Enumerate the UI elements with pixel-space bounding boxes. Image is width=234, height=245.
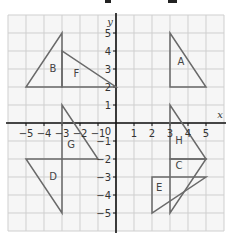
x-tick-label: 2 [149, 128, 155, 139]
y-tick-label: 3 [105, 64, 111, 75]
x-tick-label: −2 [73, 128, 88, 139]
coordinate-grid-diagram: ABFGDHCE −5−4−3−2−11234554321−1−2−3−4−50… [0, 0, 234, 245]
triangle-label: A [177, 56, 184, 67]
y-tick-label: 5 [105, 28, 111, 39]
x-tick-label: −4 [37, 128, 52, 139]
y-tick-label: 1 [105, 100, 111, 111]
x-tick-label: 4 [185, 128, 191, 139]
x-axis-label: x [217, 109, 223, 120]
triangle-label: D [49, 171, 57, 182]
x-tick-label: −3 [55, 128, 70, 139]
y-tick-label: 4 [105, 46, 111, 57]
triangle-label: C [176, 160, 183, 171]
y-axis-label: y [106, 16, 113, 27]
triangle-label: F [74, 68, 80, 79]
triangle-label: G [67, 139, 75, 150]
triangle-label: H [175, 135, 183, 146]
y-tick-label: −5 [96, 208, 111, 219]
origin-label: 0 [105, 126, 111, 137]
y-tick-label: 2 [105, 82, 111, 93]
triangle-label: E [156, 182, 162, 193]
y-tick-label: −2 [96, 154, 111, 165]
x-tick-label: 5 [203, 128, 209, 139]
y-tick-label: −1 [96, 136, 111, 147]
x-tick-label: −5 [19, 128, 34, 139]
x-tick-label: 1 [131, 128, 137, 139]
x-tick-label: 3 [167, 128, 173, 139]
y-tick-label: −4 [96, 190, 111, 201]
y-tick-label: −3 [96, 172, 111, 183]
triangle-label: B [50, 63, 57, 74]
